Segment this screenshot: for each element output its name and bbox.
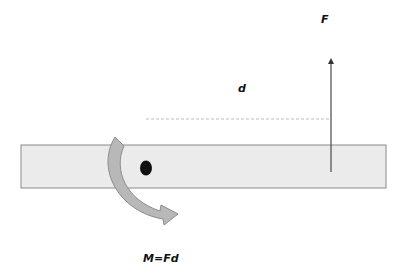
force-arrow-head (328, 58, 334, 64)
pivot-point (140, 161, 152, 176)
force-label: F (321, 13, 329, 26)
moment-label: M=Fd (143, 252, 179, 265)
distance-label: d (238, 82, 246, 95)
moment-diagram (0, 0, 405, 275)
